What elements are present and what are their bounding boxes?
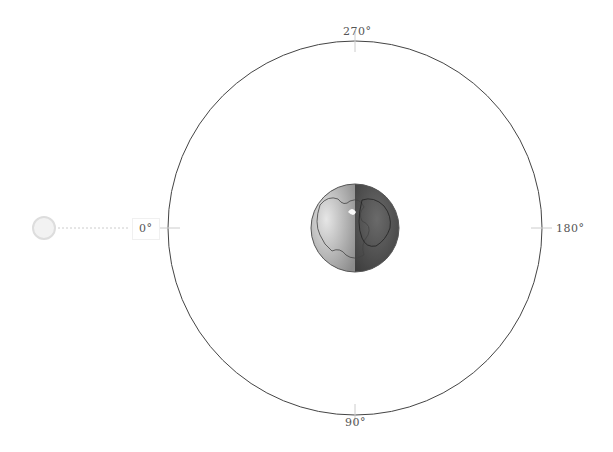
- angle-label-180: 180°: [556, 222, 585, 235]
- angle-label-0: 0°: [139, 222, 153, 235]
- angle-label-270: 270°: [343, 25, 372, 38]
- sun-icon: [33, 217, 55, 239]
- angle-label-90: 90°: [345, 416, 366, 429]
- orbit-diagram: [0, 0, 613, 452]
